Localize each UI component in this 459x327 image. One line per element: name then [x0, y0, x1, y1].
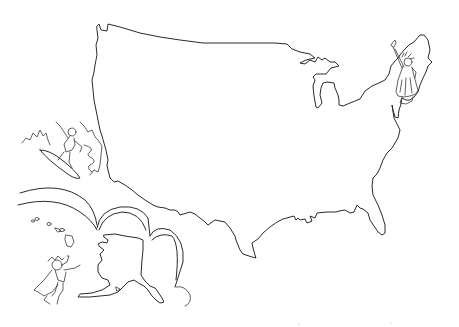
flying-child — [34, 256, 80, 304]
alaska-outline — [78, 234, 164, 303]
map-svg — [0, 0, 459, 327]
faint-marks — [298, 323, 392, 325]
surfer — [22, 122, 102, 178]
map-drawing: Hand-drawn United States outline map — [0, 0, 459, 327]
hawaii-islands — [31, 218, 74, 248]
